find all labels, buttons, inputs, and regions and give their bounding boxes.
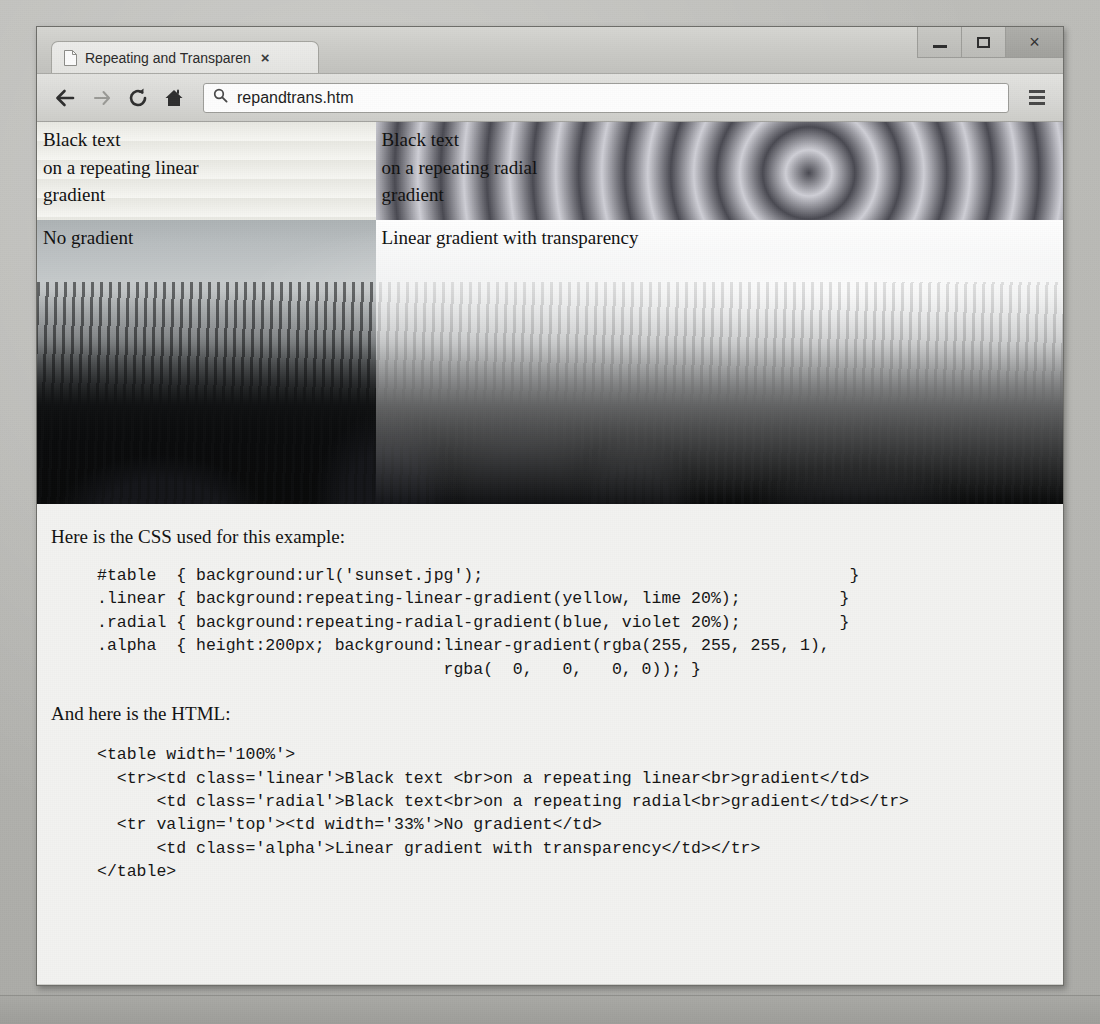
cell-linear-line-3: gradient [43,181,370,209]
close-button[interactable]: × [1005,27,1063,58]
close-icon: × [1029,32,1040,53]
cell-repeating-radial-gradient: Black text on a repeating radial gradien… [376,122,1063,220]
search-icon [213,88,228,107]
home-icon [163,88,185,108]
page-viewport: Black text on a repeating linear gradien… [37,122,1063,984]
menu-icon[interactable] [1023,83,1051,113]
menu-bar-2 [1029,96,1045,99]
table-row: No gradient Linear gradient with transpa… [37,220,1063,504]
forward-arrow-icon [91,89,113,107]
cell-linear-line-1: Black text [43,126,370,154]
html-intro-text: And here is the HTML: [51,703,1063,725]
address-bar[interactable]: repandtrans.htm [203,83,1009,113]
tab-title: Repeating and Transparen [85,50,251,66]
tab-repeating-and-transparent[interactable]: Repeating and Transparen × [51,41,319,73]
back-arrow-icon [55,89,77,107]
tab-strip: Repeating and Transparen × [51,40,381,73]
home-button[interactable] [159,83,189,113]
css-code-block: #table { background:url('sunset.jpg'); }… [97,564,1063,681]
cell-radial-line-2: on a repeating radial [382,154,1057,182]
css-intro-text: Here is the CSS used for this example: [51,526,1063,548]
browser-window: × Repeating and Transparen × [36,26,1064,986]
minimize-button[interactable] [917,27,961,58]
reload-icon [127,87,149,109]
title-bar: × Repeating and Transparen × [37,27,1063,74]
cell-radial-line-1: Black text [382,126,1057,154]
back-button[interactable] [51,83,81,113]
cell-linear-line-2: on a repeating linear [43,154,370,182]
window-controls: × [917,27,1063,58]
maximize-icon [977,37,990,48]
cell-no-gradient: No gradient [37,220,376,504]
cell-alpha-gradient: Linear gradient with transparency [376,220,1063,504]
browser-toolbar: repandtrans.htm [37,74,1063,122]
gradient-demo-table: Black text on a repeating linear gradien… [37,122,1063,504]
menu-bar-1 [1029,90,1045,93]
cell-alpha-label: Linear gradient with transparency [382,224,1057,252]
forward-button[interactable] [87,83,117,113]
table-row: Black text on a repeating linear gradien… [37,122,1063,220]
tab-close-icon[interactable]: × [261,50,270,65]
html-code-block: <table width='100%'> <tr><td class='line… [97,743,1063,884]
minimize-icon [933,45,947,48]
page-bottom-band [0,995,1100,1024]
cell-repeating-linear-gradient: Black text on a repeating linear gradien… [37,122,376,220]
new-tab-button[interactable] [313,48,375,73]
url-text[interactable]: repandtrans.htm [237,89,354,107]
reload-button[interactable] [123,83,153,113]
page-icon [64,50,77,66]
maximize-button[interactable] [961,27,1005,58]
cell-no-gradient-label: No gradient [43,224,370,252]
cell-radial-line-3: gradient [382,181,1057,209]
menu-bar-3 [1029,102,1045,105]
